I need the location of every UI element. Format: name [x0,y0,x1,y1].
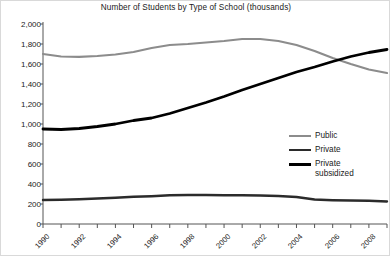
legend-item[interactable]: Private subsidized [289,159,389,179]
legend-label: Private [315,145,340,155]
chart-legend: PublicPrivatePrivate subsidized [289,131,389,183]
series-line-private-subsidized [43,50,387,130]
legend-item[interactable]: Private [289,145,389,155]
legend-swatch-icon [289,149,311,151]
legend-swatch-icon [289,163,311,166]
legend-item[interactable]: Public [289,131,389,141]
series-line-private [43,195,387,202]
chart-figure: Number of Students by Type of School (th… [0,0,390,256]
series-line-public [43,39,387,73]
legend-label: Private subsidized [315,159,354,179]
plot-area [1,1,390,256]
legend-swatch-icon [289,135,311,137]
legend-label: Public [315,131,337,141]
